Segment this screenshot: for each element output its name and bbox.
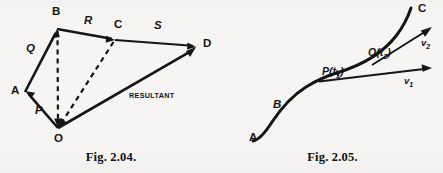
- figure-2-05: A B C P(t1) Q(t2) v1 v2 Fig. 2.05.: [222, 0, 443, 173]
- vertex-label-B: B: [52, 6, 60, 18]
- velocity-label-v2: v2: [421, 38, 430, 50]
- velocity-label-v1-sub: 1: [409, 81, 413, 88]
- dashed-C-O: [58, 42, 114, 128]
- curve-label-A: A: [249, 132, 257, 144]
- figure-2-04-drawing: [0, 0, 222, 150]
- velocity-label-v2-sub: 2: [426, 43, 430, 50]
- curve-label-C: C: [418, 3, 426, 15]
- point-label-Q-t2-base: Q(t: [368, 46, 383, 58]
- edge-O-D-resultant: [58, 47, 196, 128]
- edge-B-C-vector-R: [57, 29, 115, 43]
- vector-label-R: R: [84, 15, 92, 27]
- vector-label-S: S: [154, 20, 162, 32]
- vertex-label-C: C: [114, 19, 122, 31]
- vertex-label-D: D: [203, 38, 211, 50]
- velocity-label-v1: v1: [404, 76, 413, 88]
- point-label-Q-t2: Q(t2): [368, 47, 391, 61]
- point-label-P-t1-tail: ): [340, 65, 344, 77]
- vector-label-Q: Q: [26, 43, 35, 55]
- figure-2-05-caption: Fig. 2.05.: [222, 150, 443, 165]
- figure-page: A B C D O Q P R S RESULTANT Fig. 2.04.: [0, 0, 443, 173]
- edge-C-D-vector-S: [115, 40, 196, 49]
- vertex-label-A: A: [11, 85, 19, 97]
- edge-A-B-vector-Q: [25, 29, 60, 92]
- curve-label-B: B: [273, 99, 281, 111]
- vector-label-P: P: [35, 105, 43, 117]
- point-label-Q-t2-tail: ): [387, 46, 391, 58]
- point-label-P-t1-base: P(t: [322, 65, 336, 77]
- resultant-annotation: RESULTANT: [129, 92, 175, 99]
- figure-2-04-caption: Fig. 2.04.: [0, 150, 222, 165]
- figure-2-04: A B C D O Q P R S RESULTANT Fig. 2.04.: [0, 0, 222, 173]
- vertex-label-O: O: [54, 133, 63, 145]
- dashed-B-O: [54, 31, 62, 128]
- point-label-P-t1: P(t1): [322, 66, 344, 80]
